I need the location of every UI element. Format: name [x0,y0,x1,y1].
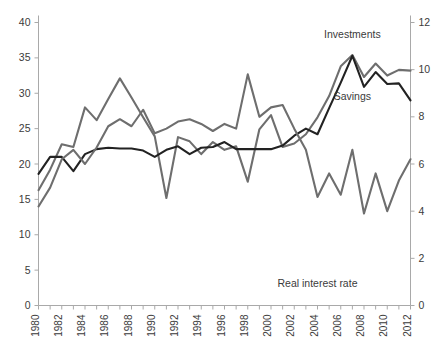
x-axis-tick-label: 1992 [169,314,180,337]
x-axis-tick-label: 1994 [192,314,203,337]
x-axis-tick-label: 1980 [30,314,41,337]
x-axis-ticks: 1980198219841986198819901992199419961998… [30,306,413,337]
y-axis-left-tick-label: 35 [19,51,31,63]
series-label-investments: Investments [324,28,381,40]
y-axis-right-tick-label: 12 [419,16,431,28]
x-axis-tick-label: 1982 [53,314,64,337]
x-axis-tick-label: 1988 [123,314,134,337]
x-axis-tick-label: 2004 [309,314,320,337]
y-axis-left-tick-label: 0 [25,299,31,311]
series-label-real-interest-rate: Real interest rate [278,277,358,289]
y-axis-left-tick-label: 30 [19,87,31,99]
y-axis-right-tick-label: 10 [419,63,431,75]
chart-container: 1980198219841986198819901992199419961998… [0,0,446,360]
y-axis-left-tick-label: 10 [19,228,31,240]
x-axis-tick-label: 1984 [76,314,87,337]
y-axis-left-tick-label: 40 [19,16,31,28]
x-axis-tick-label: 2010 [378,314,389,337]
y-axis-left-tick-label: 15 [19,193,31,205]
x-axis-tick-label: 2006 [332,314,343,337]
y-axis-right-tick-label: 4 [419,205,425,217]
y-axis-left-tick-label: 5 [25,264,31,276]
y-axis-left-ticks: 0510152025303540 [19,16,39,311]
y-axis-left-tick-label: 20 [19,158,31,170]
y-axis-right-tick-label: 2 [419,252,425,264]
line-chart: 1980198219841986198819901992199419961998… [0,0,446,360]
x-axis-tick-label: 2008 [355,314,366,337]
x-axis-tick-label: 1986 [99,314,110,337]
x-axis-tick-label: 1998 [239,314,250,337]
series-line-investments [39,55,411,198]
series-label-savings: Savings [334,90,371,102]
series-line-savings [39,56,411,174]
x-axis-tick-label: 2000 [262,314,273,337]
y-axis-right-tick-label: 8 [419,110,425,122]
chart-series-group [39,55,411,213]
y-axis-left-tick-label: 25 [19,122,31,134]
y-axis-right-ticks: 024681012 [411,16,431,311]
x-axis-tick-label: 1990 [146,314,157,337]
chart-annotations: InvestmentsSavingsReal interest rate [278,28,381,289]
y-axis-right-tick-label: 0 [419,299,425,311]
x-axis-tick-label: 2002 [285,314,296,337]
y-axis-right-tick-label: 6 [419,158,425,170]
x-axis-tick-label: 2012 [402,314,413,337]
x-axis-tick-label: 1996 [216,314,227,337]
